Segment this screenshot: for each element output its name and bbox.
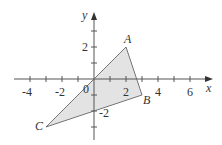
x-tick-label: 4 <box>155 85 161 99</box>
diagram-canvas: -4 -2 2 4 6 0 2 -2 x y A B C <box>0 0 222 145</box>
x-tick-label: 2 <box>123 85 129 99</box>
y-axis-arrow-icon <box>91 12 97 20</box>
y-tick-label: -2 <box>99 106 109 120</box>
y-tick-label: 2 <box>82 40 88 54</box>
point-A-label: A <box>123 32 132 46</box>
origin-label: 0 <box>83 82 89 96</box>
x-tick-label: -4 <box>22 85 32 99</box>
coordinate-diagram: -4 -2 2 4 6 0 2 -2 x y A B C <box>0 0 222 145</box>
x-tick-label: 6 <box>187 85 193 99</box>
x-axis-label: x <box>205 81 212 95</box>
point-B-label: B <box>143 93 151 107</box>
y-axis-label: y <box>81 8 88 22</box>
point-C-label: C <box>35 119 44 133</box>
x-tick-label: -2 <box>55 85 65 99</box>
